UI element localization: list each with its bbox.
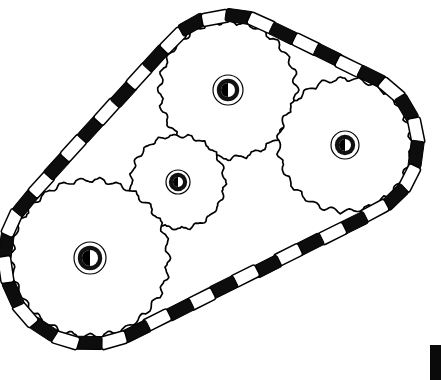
sprocket-middle-hub	[166, 170, 190, 194]
scan-edge-artifact	[430, 345, 441, 380]
sprocket-chain-illustration	[0, 0, 441, 380]
sprocket-bottom-left-hub	[74, 242, 106, 274]
sprocket-top-hub	[213, 75, 243, 105]
figure-root: Black and white scanned technical illust…	[0, 0, 441, 380]
sprocket-right-hub	[331, 131, 359, 159]
